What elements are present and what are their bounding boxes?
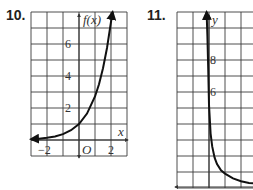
graph-11-grid: [177, 12, 253, 188]
graph-10: f(x) x O 246−22: [31, 12, 128, 158]
y-tick-label: 4: [65, 69, 71, 83]
graph-10-x-axis-label: x: [117, 124, 124, 139]
y-tick-label: 2: [65, 101, 71, 115]
y-tick-label: 6: [65, 37, 71, 51]
x-tick-label: −2: [38, 143, 51, 157]
graph-10-origin-label: O: [82, 142, 92, 157]
graphs-svg: f(x) x O 246−22 y 68: [0, 0, 253, 190]
graph-11: y 68: [175, 12, 253, 188]
graph-11-y-axis-label: y: [210, 12, 218, 27]
graph-10-y-axis-label: f(x): [83, 12, 101, 27]
x-tick-label: 2: [108, 143, 114, 157]
y-tick-label: 6: [210, 85, 216, 99]
y-tick-label: 8: [210, 53, 216, 67]
